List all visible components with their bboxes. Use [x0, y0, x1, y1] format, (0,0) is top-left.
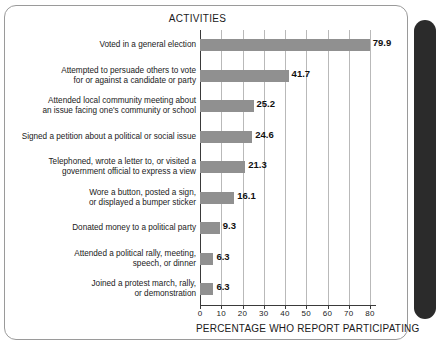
bar — [200, 222, 220, 234]
category-label: Signed a petition about a political or s… — [6, 132, 196, 142]
bar-row: Voted in a general election79.9 — [0, 30, 430, 61]
x-tick-label-80: 80 — [365, 309, 374, 318]
bar-value-label: 25.2 — [257, 98, 276, 109]
chart-title: ACTIVITIES — [150, 13, 245, 24]
category-label: Donated money to a political party — [6, 223, 196, 233]
bar-value-label: 24.6 — [255, 129, 274, 140]
bar-row: Attended a political rally, meeting, spe… — [0, 244, 430, 275]
bar-value-label: 9.3 — [223, 220, 236, 231]
bar — [200, 161, 245, 173]
x-tick-label-10: 10 — [217, 309, 226, 318]
bar-row: Donated money to a political party9.3 — [0, 213, 430, 244]
x-tick-label-20: 20 — [238, 309, 247, 318]
bar — [200, 253, 213, 265]
category-label: Telephoned, wrote a letter to, or visite… — [6, 157, 196, 177]
bar-value-label: 79.9 — [373, 37, 392, 48]
bar-value-label: 21.3 — [248, 159, 267, 170]
bar-row: Attempted to persuade others to vote for… — [0, 61, 430, 92]
bar-row: Joined a protest march, rally, or demons… — [0, 274, 430, 305]
bar — [200, 283, 213, 295]
category-label: Attended local community meeting about a… — [6, 96, 196, 116]
category-label: Attended a political rally, meeting, spe… — [6, 249, 196, 269]
category-label: Joined a protest march, rally, or demons… — [6, 279, 196, 299]
x-tick-label-30: 30 — [259, 309, 268, 318]
x-axis-title: PERCENTAGE WHO REPORT PARTICIPATING — [196, 323, 386, 334]
category-label: Wore a button, posted a sign, or display… — [6, 188, 196, 208]
bar — [200, 39, 370, 51]
bar-row: Attended local community meeting about a… — [0, 91, 430, 122]
bar-row: Wore a button, posted a sign, or display… — [0, 183, 430, 214]
bar-row: Signed a petition about a political or s… — [0, 122, 430, 153]
bar — [200, 192, 234, 204]
bar — [200, 70, 289, 82]
x-tick-label-50: 50 — [302, 309, 311, 318]
x-tick-label-60: 60 — [323, 309, 332, 318]
bar-value-label: 6.3 — [216, 251, 229, 262]
bar-value-label: 16.1 — [237, 190, 256, 201]
bar-value-label: 41.7 — [292, 68, 311, 79]
x-tick-label-40: 40 — [280, 309, 289, 318]
category-label: Attempted to persuade others to vote for… — [6, 66, 196, 86]
bar-row: Telephoned, wrote a letter to, or visite… — [0, 152, 430, 183]
x-tick-label-70: 70 — [344, 309, 353, 318]
bar — [200, 131, 252, 143]
bar-value-label: 6.3 — [216, 281, 229, 292]
x-tick-label-0: 0 — [198, 309, 203, 318]
category-label: Voted in a general election — [6, 40, 196, 50]
bar — [200, 100, 254, 112]
